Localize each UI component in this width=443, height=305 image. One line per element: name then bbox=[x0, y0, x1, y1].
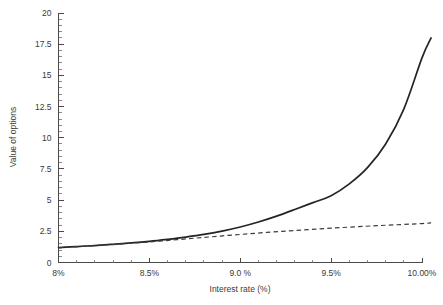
y-tick-label: 0 bbox=[47, 258, 52, 268]
x-axis-title: Interest rate (%) bbox=[210, 284, 271, 294]
y-axis-ticks bbox=[59, 13, 64, 263]
data-series-group bbox=[59, 38, 432, 248]
x-tick-label: 8.5% bbox=[140, 268, 160, 278]
chart-figure: 02.557.51012.51517.520 8%8.5%9.0 %9.5%10… bbox=[0, 0, 443, 305]
y-axis-tick-labels: 02.557.51012.51517.520 bbox=[35, 8, 52, 268]
y-axis-title: Value of options bbox=[8, 107, 18, 167]
y-tick-label: 20 bbox=[42, 8, 52, 18]
x-axis-ticks bbox=[59, 258, 423, 263]
y-tick-label: 7.5 bbox=[40, 164, 52, 174]
y-tick-label: 5 bbox=[47, 195, 52, 205]
series-solid-curve bbox=[59, 38, 432, 248]
x-axis: 8%8.5%9.0 %9.5%10.00% bbox=[52, 258, 436, 278]
y-tick-label: 2.5 bbox=[40, 226, 52, 236]
y-tick-label: 17.5 bbox=[35, 39, 52, 49]
y-axis: 02.557.51012.51517.520 bbox=[35, 8, 64, 268]
x-axis-tick-labels: 8%8.5%9.0 %9.5%10.00% bbox=[52, 268, 436, 278]
x-tick-label: 9.0 % bbox=[229, 268, 251, 278]
line-chart: 02.557.51012.51517.520 8%8.5%9.0 %9.5%10… bbox=[0, 0, 443, 305]
x-tick-label: 10.00% bbox=[408, 268, 437, 278]
y-tick-label: 12.5 bbox=[35, 102, 52, 112]
y-tick-label: 15 bbox=[42, 70, 52, 80]
y-tick-label: 10 bbox=[42, 133, 52, 143]
x-tick-label: 9.5% bbox=[321, 268, 341, 278]
x-tick-label: 8% bbox=[52, 268, 65, 278]
